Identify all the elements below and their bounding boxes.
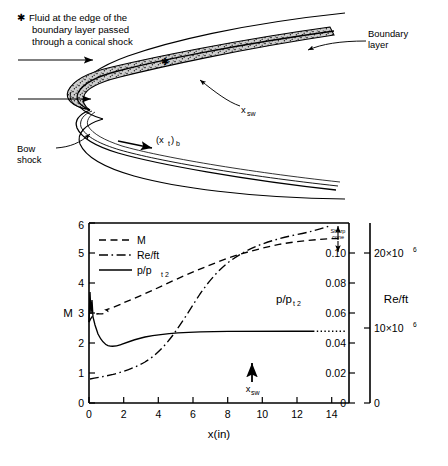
body-lower-inner-line xyxy=(81,111,338,186)
legend-label-p-over-pt2-main: p/p xyxy=(137,264,152,276)
right-inner-tick-0: 0 xyxy=(340,397,346,409)
xt-b-label-group: (x t ) b xyxy=(118,134,180,148)
right-outer-tick-10e6: 10×10 xyxy=(374,322,404,334)
legend-label-p-over-pt2-sub: t 2 xyxy=(161,271,169,278)
left-axis-ticklabels: 0 1 2 3 4 5 6 xyxy=(78,219,84,409)
right-outer-tick-0: 0 xyxy=(374,397,380,409)
body-lower-surface xyxy=(76,110,336,190)
legend-label-M: M xyxy=(137,234,146,246)
chart-legend: M Re/ft p/p t 2 xyxy=(99,234,169,278)
x-sw-label-base: x xyxy=(241,104,246,115)
right-inner-tick-008: 0.08 xyxy=(326,277,347,289)
right-inner-axis-ticklabels: 0 0.02 0.04 0.06 0.08 0.10 xyxy=(326,247,347,409)
right-inner-tick-010: 0.10 xyxy=(326,247,347,259)
right-inner-tick-004: 0.04 xyxy=(326,337,347,349)
bow-shock-label-line1: Bow xyxy=(17,143,35,154)
x-tick-6: 6 xyxy=(190,408,196,420)
series-curve-M xyxy=(89,238,342,322)
left-axis-title: M xyxy=(63,307,73,319)
x-axis-ticks xyxy=(89,397,332,403)
right-outer-tick-20e6: 20×10 xyxy=(374,247,404,259)
legend-label-Re-per-ft: Re/ft xyxy=(137,249,159,261)
x-tick-8: 8 xyxy=(225,408,231,420)
right-inner-axis-ticks xyxy=(349,253,355,403)
left-tick-4: 4 xyxy=(78,277,84,289)
x-sw-leader xyxy=(200,80,240,106)
xt-b-label-close: ) xyxy=(171,134,174,145)
x-tick-4: 4 xyxy=(155,408,161,420)
x-sw-annotation-sub: sw xyxy=(251,389,261,396)
right-outer-tick-10e6-exp: 6 xyxy=(413,321,417,328)
annotation-x-sw: x sw xyxy=(246,363,261,396)
x-sw-label-group: x sw xyxy=(200,80,257,117)
x-tick-10: 10 xyxy=(256,408,268,420)
chart: 0 1 2 3 4 5 6 M 0 2 4 6 8 10 12 xyxy=(63,219,417,440)
xt-b-arrow xyxy=(118,141,152,148)
x-axis-ticklabels: 0 2 4 6 8 10 12 14 xyxy=(86,408,338,420)
conical-shock-note: ✱ Fluid at the edge of the boundary laye… xyxy=(17,12,133,47)
x-tick-12: 12 xyxy=(291,408,303,420)
right-outer-axis-ticklabels: 0 10×10 6 20×10 6 xyxy=(374,246,417,409)
sharp-cone-label-line2: cone xyxy=(332,234,344,240)
body-lower-inner-line-2 xyxy=(87,112,340,182)
right-inner-axis-title-sub: t 2 xyxy=(293,300,301,307)
right-outer-tick-20e6-exp: 6 xyxy=(413,246,417,253)
boundary-layer-label-line2: layer xyxy=(368,39,388,50)
bow-shock-leader xyxy=(56,134,90,148)
x-sw-annotation-base: x xyxy=(246,383,251,394)
left-tick-2: 2 xyxy=(78,337,84,349)
x-sw-label-sub: sw xyxy=(247,110,257,117)
right-inner-tick-002: 0.02 xyxy=(326,367,347,379)
note-line-3: through a conical shock xyxy=(32,36,133,47)
right-outer-axis-title: Re/ft xyxy=(384,293,409,305)
xt-b-label-main: (x xyxy=(156,134,164,145)
right-outer-axis-ticks xyxy=(364,253,370,403)
left-tick-1: 1 xyxy=(78,367,84,379)
figure-container: ✱ Fluid at the edge of the boundary laye… xyxy=(0,0,448,466)
right-inner-tick-006: 0.06 xyxy=(326,307,347,319)
boundary-layer-leader xyxy=(308,41,366,50)
schematic-diagram: ✱ Fluid at the edge of the boundary laye… xyxy=(17,12,408,199)
left-tick-0: 0 xyxy=(78,397,84,409)
note-star-marker: ✱ xyxy=(17,12,25,23)
boundary-layer-label-line1: Boundary xyxy=(368,28,408,39)
schematic-star-marker: ✱ xyxy=(161,56,169,67)
bow-shock-label-line2: shock xyxy=(17,154,42,165)
right-inner-axis-title-main: p/p xyxy=(276,293,292,305)
figure-svg: ✱ Fluid at the edge of the boundary laye… xyxy=(0,0,448,466)
x-tick-0: 0 xyxy=(86,408,92,420)
x-tick-2: 2 xyxy=(121,408,127,420)
note-line-2: boundary layer passed xyxy=(32,24,129,35)
right-inner-axis-title: p/p t 2 xyxy=(276,293,301,307)
left-tick-6: 6 xyxy=(78,219,84,231)
note-line-1: Fluid at the edge of the xyxy=(29,12,127,23)
xt-b-label-sub1: t xyxy=(168,140,170,147)
left-tick-5: 5 xyxy=(78,247,84,259)
x-tick-14: 14 xyxy=(326,408,338,420)
left-tick-3: 3 xyxy=(78,307,84,319)
xt-b-label-sub2: b xyxy=(176,140,180,147)
x-axis-title: x(in) xyxy=(208,428,231,440)
